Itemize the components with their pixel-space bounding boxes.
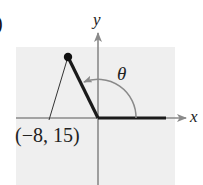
- point-coordinate-label: (−8, 15): [15, 125, 80, 145]
- diagram-canvas: [0, 0, 203, 185]
- angle-diagram: ) y x θ (−8, 15): [0, 0, 203, 185]
- angle-label: θ: [117, 64, 126, 83]
- y-axis-label: y: [93, 11, 101, 28]
- part-label: ): [0, 13, 3, 33]
- point-marker: [64, 53, 72, 61]
- x-axis-label: x: [190, 108, 198, 125]
